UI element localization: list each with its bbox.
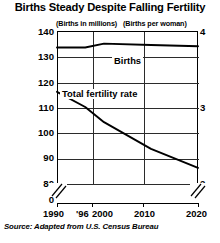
series-line-births — [57, 44, 198, 48]
chart-container: Births Steady Despite Falling Fertility … — [0, 0, 220, 243]
series-line-total-fertility-rate — [57, 92, 198, 168]
series-label-total-fertility-rate: Total fertility rate — [60, 89, 139, 99]
source-note: Source: Adapted from U.S. Census Bureau — [4, 222, 158, 231]
series-label-births: Births — [112, 56, 143, 66]
series-layer — [0, 0, 220, 243]
